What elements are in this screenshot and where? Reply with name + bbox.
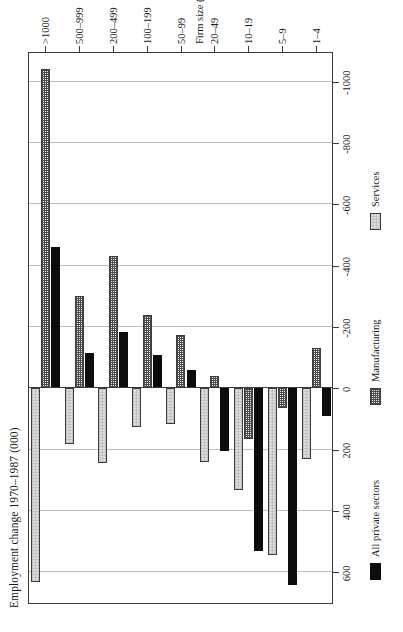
value-tick-label-0: 0	[341, 387, 352, 392]
gridline-200	[29, 449, 332, 450]
bar-all-private-sectors-500–999	[85, 353, 94, 388]
bar-services->1000	[31, 388, 40, 581]
legend-label: All private sectors	[370, 480, 381, 557]
category-axis-title: Firm size (employees)	[194, 0, 205, 44]
gridline-600	[29, 571, 332, 572]
gridline--400	[29, 265, 332, 266]
bar-services-5–9	[268, 388, 277, 555]
bar-all-private-sectors-10–19	[254, 388, 263, 551]
bar-all-private-sectors-100–199	[153, 355, 162, 389]
bar-manufacturing-1–4	[312, 348, 321, 388]
category-tick-label-20–49: 20–49	[209, 18, 220, 44]
bar-services-100–199	[132, 388, 141, 426]
bar-manufacturing-50–99	[176, 335, 185, 389]
category-tick-label-100–199: 100–199	[141, 7, 152, 44]
legend-item-all-private-sectors: All private sectors	[370, 480, 381, 580]
category-tick-label->1000: >1000	[39, 17, 50, 44]
bar-services-1–4	[302, 388, 311, 459]
plot-area	[28, 52, 333, 604]
bar-manufacturing-200–499	[109, 256, 118, 388]
figure-stage: employment change by size of firmthe gro…	[0, 0, 403, 632]
bar-manufacturing-5–9	[278, 388, 287, 408]
legend-swatch-icon-1	[370, 388, 381, 405]
value-tick-label--600: -600	[341, 196, 352, 215]
bar-manufacturing-10–19	[244, 388, 253, 439]
bar-all-private-sectors-200–499	[119, 332, 128, 389]
gridline-400	[29, 510, 332, 511]
value-tick--600	[333, 204, 339, 205]
value-tick-600	[333, 572, 339, 573]
bar-manufacturing-500–999	[75, 296, 84, 388]
value-tick-label--800: -800	[341, 134, 352, 153]
legend-label: Services	[370, 171, 381, 207]
value-axis-title: Employment change 1970–1987 (000)	[8, 427, 20, 608]
gridline--1000	[29, 81, 332, 82]
value-tick-label-400: 400	[341, 504, 352, 520]
bar-manufacturing->1000	[41, 69, 50, 388]
bar-all-private-sectors-50–99	[187, 370, 196, 388]
category-tick-100–199	[147, 46, 148, 52]
bar-all-private-sectors->1000	[51, 247, 60, 388]
bar-manufacturing-100–199	[143, 315, 152, 389]
legend-item-manufacturing: Manufacturing	[370, 320, 381, 405]
bar-services-10–19	[234, 388, 243, 489]
category-tick-label-10–19: 10–19	[243, 18, 254, 44]
value-tick-label-200: 200	[341, 443, 352, 459]
category-tick-10–19	[248, 46, 249, 52]
category-tick-50–99	[181, 46, 182, 52]
category-tick-label-50–99: 50–99	[175, 18, 186, 44]
plot-inner	[29, 53, 332, 603]
category-tick-label-200–499: 200–499	[107, 7, 118, 44]
bar-all-private-sectors-1–4	[322, 388, 331, 416]
category-tick-label-500–999: 500–999	[73, 7, 84, 44]
category-tick-1–4	[316, 46, 317, 52]
gridline--800	[29, 142, 332, 143]
value-tick-label--400: -400	[341, 257, 352, 276]
chart-legend: All private sectorsManufacturingServices	[364, 80, 394, 580]
value-tick--200	[333, 327, 339, 328]
value-tick-label-600: 600	[341, 565, 352, 581]
value-tick-0	[333, 388, 339, 389]
bar-all-private-sectors-20–49	[220, 388, 229, 451]
legend-item-services: Services	[370, 171, 381, 230]
gridline--600	[29, 203, 332, 204]
bar-services-20–49	[200, 388, 209, 462]
value-tick-label--1000: -1000	[341, 70, 352, 95]
category-tick-label-1–4: 1–4	[311, 28, 322, 44]
zero-line	[29, 387, 332, 388]
value-tick--800	[333, 143, 339, 144]
legend-swatch-icon-0	[370, 563, 381, 580]
category-tick-20–49	[214, 46, 215, 52]
legend-label: Manufacturing	[370, 320, 381, 382]
value-tick-label--200: -200	[341, 318, 352, 337]
legend-swatch-icon-2	[370, 213, 381, 230]
bar-all-private-sectors-5–9	[288, 388, 297, 584]
value-tick-400	[333, 511, 339, 512]
value-tick--400	[333, 266, 339, 267]
category-tick-5–9	[282, 46, 283, 52]
value-tick-200	[333, 450, 339, 451]
bar-services-200–499	[98, 388, 107, 463]
category-tick-label-5–9: 5–9	[277, 28, 288, 44]
value-tick--1000	[333, 82, 339, 83]
category-tick-500–999	[79, 46, 80, 52]
bar-services-500–999	[65, 388, 74, 443]
bar-services-50–99	[166, 388, 175, 423]
category-tick-200–499	[113, 46, 114, 52]
category-tick->1000	[45, 46, 46, 52]
